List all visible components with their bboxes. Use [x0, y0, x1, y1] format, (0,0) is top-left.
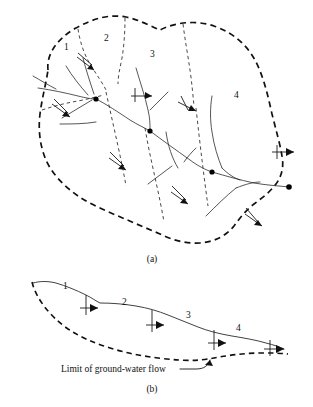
annotation-leader-arrowhead [205, 360, 213, 366]
figure-canvas: 1 2 3 4 (a) [0, 0, 313, 407]
tributary-b4-b [222, 168, 240, 180]
tributary-b1-e [60, 122, 96, 124]
basin-outlet-node [286, 184, 292, 190]
outer-drainage-divide [39, 16, 283, 243]
flow-arrow-marker [131, 88, 152, 102]
basin-label-4: 4 [234, 90, 239, 100]
stream-junction-node [209, 169, 214, 174]
segment-label-1: 1 [63, 281, 68, 291]
land-surface-profile [33, 282, 284, 350]
ground-water-flow-limit [32, 282, 288, 360]
tributary-b3-b [148, 166, 172, 184]
flow-arrow-marker [109, 152, 126, 170]
ground-water-flow-annotation: Limit of ground-water flow [61, 364, 166, 374]
tributary-b2-b [150, 92, 168, 110]
flow-arrow-marker [80, 295, 98, 315]
inner-divide-south-3 [145, 128, 164, 222]
outlet-flow-arrow-marker [272, 145, 294, 159]
inner-divide-2-3 [118, 18, 125, 84]
panel-profile-view: Limit of ground-water flow 1 2 3 4 (b) [32, 281, 288, 395]
flow-arrow-marker [146, 310, 164, 332]
tributary-b1-b [66, 66, 88, 95]
segment-label-2: 2 [122, 297, 127, 307]
segment-label-4: 4 [236, 323, 241, 333]
basin-label-2: 2 [104, 33, 109, 43]
inner-divide-south-4 [196, 108, 208, 206]
tributary-b4-a [211, 96, 223, 168]
panel-caption-b: (b) [146, 384, 157, 395]
segment-label-3: 3 [186, 310, 191, 320]
stream-junction-node [93, 96, 98, 101]
inner-divide-1-2 [78, 29, 106, 90]
inner-divide-3-4 [183, 24, 194, 106]
tributary-b4-d [236, 182, 260, 188]
hydrology-figure: 1 2 3 4 (a) [0, 0, 313, 407]
flow-arrow-marker [52, 99, 70, 117]
basin-label-3: 3 [150, 49, 155, 59]
panel-caption-a: (a) [147, 254, 158, 265]
basin-label-1: 1 [64, 42, 69, 52]
stream-junction-node [147, 128, 152, 133]
flow-arrow-marker [178, 96, 196, 111]
flow-arrow-marker [171, 186, 188, 204]
tributary-b2-a [136, 68, 150, 130]
panel-plan-view: 1 2 3 4 (a) [33, 16, 294, 265]
tributary-b4-c [206, 188, 236, 216]
